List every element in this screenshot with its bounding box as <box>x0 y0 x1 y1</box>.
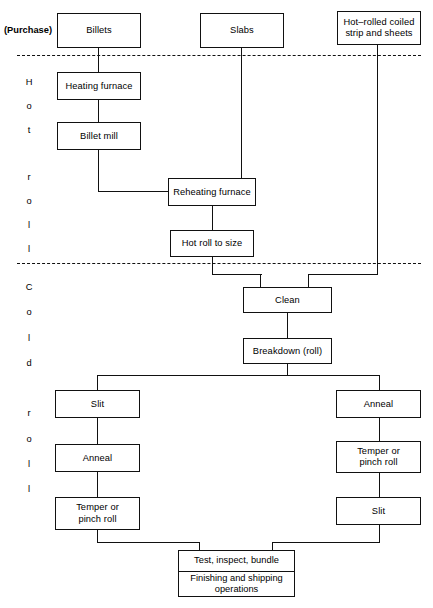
node-hot-rolled-coiled-strip-line2: strip and sheets <box>345 28 412 40</box>
connector-hot-roll-right <box>212 274 262 275</box>
node-billets[interactable]: Billets <box>57 13 141 48</box>
connector-reheating-furnace-to-hot-roll <box>212 206 213 231</box>
node-finishing-shipping-line2: operations <box>215 584 258 596</box>
stage-letter-cold-7: l <box>28 460 30 469</box>
stage-letter-cold-6: o <box>26 435 31 444</box>
connector-slit-left-to-anneal-left <box>97 418 98 444</box>
stage-letter-cold-0: C <box>26 283 33 292</box>
node-slabs[interactable]: Slabs <box>200 13 284 48</box>
connector-billets-to-heating-furnace <box>98 48 99 72</box>
connector-heating-furnace-to-billet-mill <box>98 100 99 122</box>
connector-clean-to-breakdown <box>287 313 288 339</box>
node-temper-or-pinch-roll-right[interactable]: Temper or pinch roll <box>336 441 421 473</box>
stage-letter-hot-2: t <box>28 126 31 135</box>
connector-billet-mill-down <box>98 150 99 192</box>
node-slit-right[interactable]: Slit <box>336 497 421 525</box>
node-temper-right-line2: pinch roll <box>359 457 397 469</box>
stage-letter-hot-5: o <box>26 197 31 206</box>
stage-label-cold-roll: C o l d r o l l <box>22 283 36 495</box>
connector-anneal-left-to-temper-left <box>97 472 98 497</box>
node-temper-left-line2: pinch roll <box>78 514 116 526</box>
node-test-inspect-bundle: Test, inspect, bundle <box>179 551 294 572</box>
stage-letter-cold-5: r <box>27 409 30 418</box>
flowchart-canvas: (Purchase) Billets Slabs Hot–rolled coil… <box>0 0 433 608</box>
node-anneal-left[interactable]: Anneal <box>55 444 140 472</box>
stage-letter-cold-4 <box>28 384 31 393</box>
stage-letter-cold-1: o <box>26 308 31 317</box>
connector-billet-mill-to-reheating-furnace <box>98 191 169 192</box>
connector-anneal-right-to-temper-right <box>379 418 380 441</box>
node-temper-or-pinch-roll-left[interactable]: Temper or pinch roll <box>55 497 140 530</box>
connector-breakdown-split-bus <box>97 375 380 376</box>
connector-hot-rolled-coil-left <box>308 274 378 275</box>
stage-label-hot-roll: H o t r o l l <box>22 78 36 254</box>
stage-letter-hot-3 <box>28 149 31 158</box>
divider-purchase-hot <box>17 55 421 56</box>
node-clean[interactable]: Clean <box>243 287 332 313</box>
connector-slit-right-down <box>379 525 380 543</box>
node-hot-rolled-coiled-strip-line1: Hot–rolled coiled <box>344 17 415 29</box>
node-hot-roll-to-size[interactable]: Hot roll to size <box>170 230 254 257</box>
node-temper-right-line1: Temper or <box>357 446 400 458</box>
node-slit-left[interactable]: Slit <box>55 390 140 418</box>
divider-hot-cold <box>17 263 421 264</box>
stage-letter-hot-0: H <box>26 78 33 87</box>
stage-letter-hot-7: l <box>28 245 30 254</box>
stage-letter-cold-8: l <box>28 485 30 494</box>
connector-slabs-to-reheating-furnace <box>241 48 242 179</box>
purchase-label: (Purchase) <box>4 25 52 35</box>
node-reheating-furnace[interactable]: Reheating furnace <box>168 178 256 206</box>
node-anneal-right[interactable]: Anneal <box>336 390 421 418</box>
connector-breakdown-to-slit-left <box>97 375 98 391</box>
node-final-operations[interactable]: Test, inspect, bundle Finishing and ship… <box>178 550 295 597</box>
stage-letter-cold-2: l <box>28 334 30 343</box>
stage-letter-hot-4: r <box>27 173 30 182</box>
node-hot-rolled-coiled-strip[interactable]: Hot–rolled coiled strip and sheets <box>337 11 421 45</box>
connector-hot-roll-down <box>212 257 213 275</box>
node-finishing-shipping: Finishing and shipping operations <box>179 572 294 596</box>
stage-letter-hot-1: o <box>26 102 31 111</box>
node-billet-mill[interactable]: Billet mill <box>57 122 141 150</box>
node-temper-left-line1: Temper or <box>76 502 119 514</box>
connector-breakdown-to-anneal-right <box>379 375 380 391</box>
stage-letter-cold-3: d <box>26 359 31 368</box>
connector-temper-right-to-slit-right <box>379 473 380 497</box>
connector-hot-roll-to-clean <box>260 274 261 288</box>
node-finishing-shipping-line1: Finishing and shipping <box>190 573 283 585</box>
connector-hot-rolled-coil-down <box>377 45 378 275</box>
connector-slit-right-left <box>272 542 380 543</box>
stage-letter-hot-6: l <box>28 221 30 230</box>
connector-hot-rolled-coil-to-clean <box>308 274 309 288</box>
node-heating-furnace[interactable]: Heating furnace <box>57 72 141 100</box>
node-breakdown-roll[interactable]: Breakdown (roll) <box>243 338 332 364</box>
connector-temper-left-right <box>97 542 200 543</box>
